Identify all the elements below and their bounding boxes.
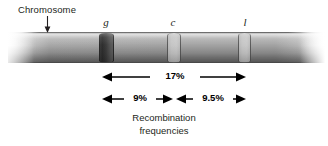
chromosome-label: Chromosome [18, 4, 76, 15]
measure-c-to-l: 9.5% [176, 92, 246, 106]
chromosome-edge-top [8, 32, 326, 33]
measure-value-c-to-l: 9.5% [193, 91, 233, 105]
down-arrow-icon [44, 16, 51, 33]
measure-g-to-l: 17% [102, 70, 246, 84]
chromosome-edge-bottom [8, 62, 326, 63]
gene-band-g [99, 33, 114, 63]
caption: Recombination frequencies [0, 112, 328, 137]
caption-line-2: frequencies [0, 125, 328, 138]
caption-line-1: Recombination [0, 112, 328, 125]
gene-label-g: g [99, 16, 113, 28]
gene-label-c: c [166, 16, 180, 28]
chromosome-bar [0, 32, 328, 64]
recombination-frequency-diagram: Chromosome g c l 17% [0, 0, 328, 146]
gene-label-l: l [238, 16, 252, 28]
gene-band-c [167, 33, 181, 63]
measure-g-to-c: 9% [102, 92, 173, 106]
measure-value-g-to-c: 9% [124, 91, 156, 105]
gene-band-l [238, 33, 251, 63]
measure-value-g-to-l: 17% [150, 69, 200, 83]
